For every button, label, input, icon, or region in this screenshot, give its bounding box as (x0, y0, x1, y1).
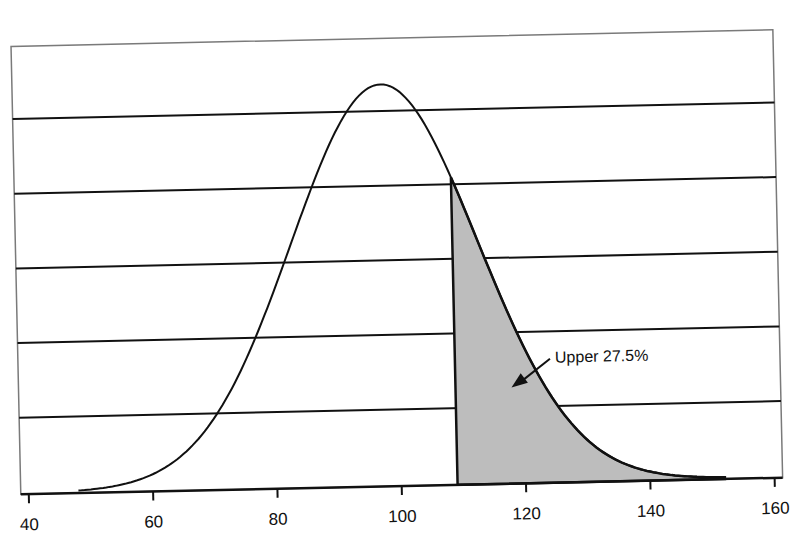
normal-distribution-chart: 406080100120140160 Upper 27.5% (0, 0, 796, 538)
x-tick-label: 40 (20, 515, 39, 534)
x-tick-label: 120 (512, 504, 541, 524)
plot-frame (11, 30, 783, 495)
x-tick-label: 60 (144, 512, 163, 531)
x-tick-label: 100 (388, 507, 417, 527)
x-tick-label: 160 (761, 499, 790, 519)
x-tick-label: 140 (637, 501, 666, 521)
annotation-label: Upper 27.5% (555, 347, 649, 366)
x-tick-label: 80 (268, 510, 287, 529)
